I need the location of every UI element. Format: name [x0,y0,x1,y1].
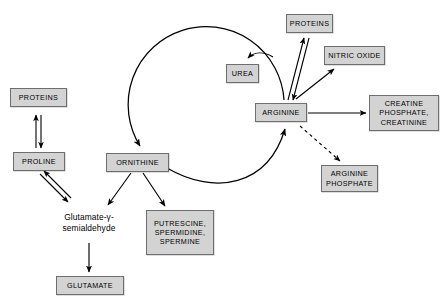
node-arginine[interactable]: ARGININE [255,103,307,122]
node-glutamate-semialdehyde-label: Glutamate-γ- semialdehyde [63,212,116,234]
node-glutamate-semialdehyde: Glutamate-γ- semialdehyde [47,208,131,238]
node-arginine-phosphate-label: ARGININE PHOSPHATE [326,169,373,187]
node-urea[interactable]: UREA [226,64,259,83]
node-proteins-left[interactable]: PROTEINS [10,88,67,107]
node-proline[interactable]: PROLINE [13,152,65,171]
node-putrescine-label: PUTRESCINE, SPERMIDINE, SPERMINE [154,219,206,247]
node-glutamate[interactable]: GLUTAMATE [56,276,124,295]
node-creatine-label: CREATINE PHOSPHATE, CREATININE [379,99,428,127]
edge-ornithine-to-glutamate-semialdehyde [108,173,131,205]
edge-ornithine-to-putrescine [143,173,165,206]
edge-proteins-top-to-arginine [293,38,309,100]
edge-arginine-to-ornithine [128,27,284,146]
pathway-diagram: PROTEINS PROLINE Glutamate-γ- semialdehy… [0,0,443,307]
node-arginine-label: ARGININE [262,108,300,117]
node-putrescine-spermidine-spermine[interactable]: PUTRESCINE, SPERMIDINE, SPERMINE [146,210,214,255]
edge-ornithine-to-arginine [167,129,285,183]
node-proteins-top[interactable]: PROTEINS [286,14,333,33]
node-urea-label: UREA [232,69,253,78]
node-ornithine-label: ORNITHINE [116,158,159,167]
node-ornithine[interactable]: ORNITHINE [106,153,169,172]
node-proteins-top-label: PROTEINS [290,19,330,28]
edge-proline-to-glutamate-semialdehyde [40,174,68,202]
edge-glutamate-semialdehyde-to-proline [44,171,71,198]
edge-arginine-to-arginine-phosphate [300,126,340,161]
node-nitric-oxide-label: NITRIC OXIDE [328,51,381,60]
node-arginine-phosphate[interactable]: ARGININE PHOSPHATE [321,165,378,192]
node-nitric-oxide[interactable]: NITRIC OXIDE [324,46,385,65]
node-proteins-left-label: PROTEINS [19,93,59,102]
edge-arginine-to-nitric-oxide [296,69,334,99]
edge-arginine-to-proteins-top [288,38,304,100]
node-proline-label: PROLINE [22,157,56,166]
node-glutamate-label: GLUTAMATE [67,281,113,290]
node-creatine-phosphate-creatinine[interactable]: CREATINE PHOSPHATE, CREATININE [369,95,439,131]
edge-arginine-to-urea [248,53,273,58]
